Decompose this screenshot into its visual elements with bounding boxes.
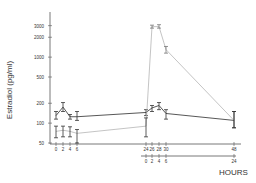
y-tick-label: 1000 (34, 55, 45, 60)
x-tick-secondary-label: 24 (231, 159, 237, 164)
y-axis-label: Estradiol (pg/ml) (5, 61, 14, 120)
x-tick-label: 30 (163, 147, 169, 152)
y-tick-label: 2000 (34, 35, 45, 40)
y-tick-label: 3000 (34, 24, 45, 29)
estradiol-chart: 5010020050010002000300002462426283048024… (0, 0, 256, 183)
x-tick-label: 24 (143, 147, 149, 152)
series-b (54, 25, 236, 143)
x-tick-label: 0 (55, 147, 58, 152)
y-tick-label: 500 (36, 75, 44, 80)
x-tick-label: 6 (76, 147, 79, 152)
y-tick-label: 200 (36, 101, 44, 106)
x-tick-label: 26 (149, 147, 155, 152)
y-tick-label: 50 (39, 141, 45, 146)
x-tick-secondary-label: 4 (158, 159, 161, 164)
x-tick-secondary-label: 6 (165, 159, 168, 164)
x-tick-label: 28 (156, 147, 162, 152)
y-tick-label: 100 (36, 121, 44, 126)
x-tick-secondary-label: 2 (151, 159, 154, 164)
x-tick-label: 2 (62, 147, 65, 152)
x-tick-label: 48 (231, 147, 237, 152)
series-group (54, 25, 236, 143)
x-tick-secondary-label: 0 (145, 159, 148, 164)
x-tick-label: 4 (69, 147, 72, 152)
series-a (54, 103, 236, 128)
axes: 5010020050010002000300002462426283048024… (34, 12, 241, 164)
x-axis-label: HOURS (219, 168, 248, 177)
